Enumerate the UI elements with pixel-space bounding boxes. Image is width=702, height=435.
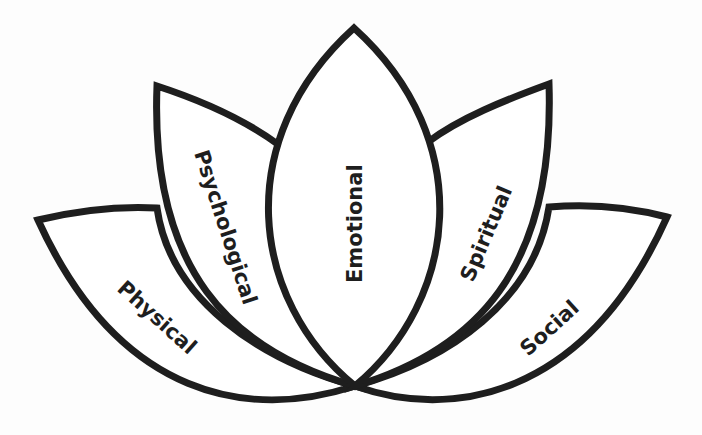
- lotus-diagram: Physical Psychological Emotional Spiritu…: [0, 0, 702, 435]
- label-emotional: Emotional: [343, 164, 367, 283]
